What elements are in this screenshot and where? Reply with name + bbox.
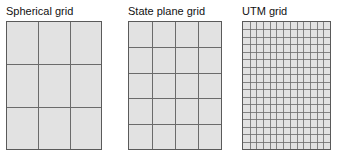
panel-title-utm: UTM grid (242, 5, 287, 18)
grid-comparison-figure: Spherical grid State plane grid UTM grid (0, 0, 342, 159)
gridlines-utm (243, 22, 330, 149)
grid-box-utm (242, 21, 331, 150)
gridlines-spherical (7, 22, 101, 149)
gridlines-state-plane (129, 22, 221, 149)
grid-box-spherical (6, 21, 102, 150)
panel-title-spherical: Spherical grid (6, 5, 73, 18)
panel-title-state-plane: State plane grid (128, 5, 205, 18)
grid-box-state-plane (128, 21, 222, 150)
